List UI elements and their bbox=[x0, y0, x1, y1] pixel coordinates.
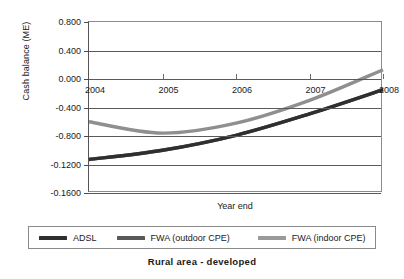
legend-swatch bbox=[117, 236, 145, 240]
x-axis-label: 2008 bbox=[379, 85, 399, 95]
legend-swatch bbox=[258, 236, 286, 240]
chart-figure: Cash balance (ME) 0.8000.4000.000-0.400-… bbox=[0, 0, 404, 279]
x-axis-label: 2007 bbox=[305, 85, 325, 95]
x-axis-tick bbox=[163, 74, 164, 79]
y-axis-tick bbox=[84, 22, 89, 23]
y-axis-tick bbox=[84, 165, 89, 166]
plot-area: 0.8000.4000.000-0.400-0.800-0.1200-0.160… bbox=[88, 21, 382, 192]
y-axis-label: -0.400 bbox=[55, 103, 81, 113]
y-axis-tick bbox=[84, 193, 89, 194]
y-axis-label: 0.800 bbox=[58, 17, 81, 27]
gridline bbox=[89, 51, 381, 52]
gridline bbox=[89, 136, 381, 137]
y-axis-label: 0.400 bbox=[58, 46, 81, 56]
y-axis-tick bbox=[84, 136, 89, 137]
x-axis-tick bbox=[310, 74, 311, 79]
y-axis-tick bbox=[84, 108, 89, 109]
x-axis-label: 2004 bbox=[85, 85, 105, 95]
x-axis-label: 2006 bbox=[232, 85, 252, 95]
gridline bbox=[89, 79, 381, 80]
y-axis-title: Cash balance (ME) bbox=[21, 0, 31, 131]
legend-item[interactable]: FWA (indoor CPE) bbox=[258, 233, 366, 243]
y-axis-label: 0.000 bbox=[58, 74, 81, 84]
y-axis-tick bbox=[84, 51, 89, 52]
legend-label: FWA (indoor CPE) bbox=[292, 233, 366, 243]
x-axis-label: 2005 bbox=[158, 85, 178, 95]
y-axis-label: -0.1600 bbox=[50, 188, 81, 198]
chart-legend: ADSLFWA (outdoor CPE)FWA (indoor CPE) bbox=[28, 226, 376, 249]
y-axis-label: -0.800 bbox=[55, 131, 81, 141]
chart-caption: Rural area - developed bbox=[0, 256, 404, 267]
legend-swatch bbox=[39, 236, 67, 240]
x-axis-tick bbox=[383, 74, 384, 79]
legend-item[interactable]: ADSL bbox=[39, 233, 97, 243]
gridline bbox=[89, 193, 381, 194]
legend-label: ADSL bbox=[73, 233, 97, 243]
legend-label: FWA (outdoor CPE) bbox=[151, 233, 230, 243]
legend-item[interactable]: FWA (outdoor CPE) bbox=[117, 233, 230, 243]
x-axis-tick bbox=[236, 74, 237, 79]
y-axis-label: -0.1200 bbox=[50, 160, 81, 170]
y-axis-tick bbox=[84, 79, 89, 80]
x-axis-title: Year end bbox=[88, 201, 382, 211]
gridline bbox=[89, 108, 381, 109]
gridline bbox=[89, 165, 381, 166]
